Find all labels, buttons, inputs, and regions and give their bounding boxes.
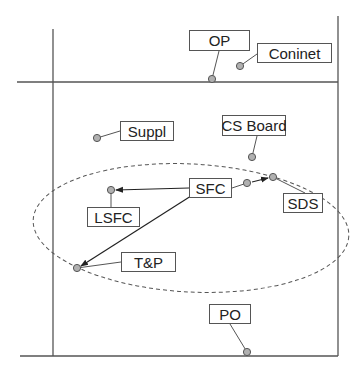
node-suppl[interactable]: Suppl <box>120 121 174 141</box>
dot-tp-icon <box>73 264 80 271</box>
connector-op <box>212 51 219 79</box>
dot-coninet-icon <box>236 62 243 69</box>
node-label-sds: SDS <box>288 195 319 212</box>
node-label-cs-board: CS Board <box>221 117 286 134</box>
node-label-sfc: SFC <box>196 180 226 197</box>
dot-po-icon <box>243 348 250 355</box>
connector-po <box>230 324 247 352</box>
node-label-coninet: Coninet <box>269 45 321 62</box>
node-sfc[interactable]: SFC <box>189 178 232 198</box>
arrow-0 <box>252 178 268 182</box>
node-tp[interactable]: T&P <box>121 252 176 272</box>
arrow-1 <box>116 188 189 190</box>
node-po[interactable]: PO <box>209 304 251 324</box>
dot-sfc-icon <box>243 179 250 186</box>
node-cs-board[interactable]: CS Board <box>222 115 286 136</box>
node-coninet[interactable]: Coninet <box>257 43 332 63</box>
dot-op-icon <box>208 75 215 82</box>
dot-sds-icon <box>269 173 276 180</box>
connector-lines <box>77 51 305 352</box>
node-lsfc[interactable]: LSFC <box>87 207 140 227</box>
node-label-op: OP <box>209 32 231 49</box>
node-label-suppl: Suppl <box>128 123 166 140</box>
node-label-lsfc: LSFC <box>94 209 132 226</box>
boundary-frame <box>17 16 338 356</box>
node-sds[interactable]: SDS <box>283 193 323 213</box>
dot-lsfc-icon <box>107 186 114 193</box>
dot-cs-board-icon <box>248 153 255 160</box>
node-label-po: PO <box>219 306 241 323</box>
node-label-tp: T&P <box>134 254 163 271</box>
dot-suppl-icon <box>93 134 100 141</box>
node-op[interactable]: OP <box>189 30 250 51</box>
connector-sds <box>273 177 305 193</box>
